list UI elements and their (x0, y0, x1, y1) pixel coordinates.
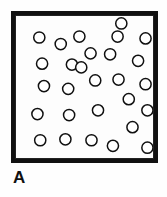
particle-circle (85, 48, 96, 59)
particle-circle (64, 109, 75, 120)
particle-circle (142, 142, 153, 153)
particle-circle (34, 32, 45, 43)
particle-circle (113, 74, 124, 85)
particle-circle (90, 75, 101, 86)
specimen-inner-rule (15, 15, 154, 159)
panel-label-a: A (13, 169, 25, 187)
particle-circle (35, 135, 46, 146)
particle-circle (112, 31, 123, 42)
particle-scatter-layer (16, 16, 153, 158)
particle-circle (74, 31, 85, 42)
particle-svg (16, 16, 153, 158)
specimen-frame (11, 11, 158, 163)
particle-circle (86, 135, 97, 146)
particle-circle (105, 49, 116, 60)
figure-panel-a: A (0, 0, 167, 197)
particle-circle (123, 94, 134, 105)
particle-circle (37, 58, 48, 69)
particle-circle (32, 108, 43, 119)
particle-circle (76, 62, 87, 73)
particle-circle (142, 105, 153, 116)
particle-circle (132, 55, 143, 66)
particle-circle (107, 140, 118, 151)
particle-circle (60, 134, 71, 145)
particle-circle (127, 122, 138, 133)
particle-circle (92, 105, 103, 116)
particle-circle (140, 79, 151, 90)
particle-circle (38, 80, 49, 91)
particle-circle (140, 33, 151, 44)
particle-circle (55, 38, 66, 49)
particle-circle (116, 18, 127, 29)
particle-circle (63, 83, 74, 94)
